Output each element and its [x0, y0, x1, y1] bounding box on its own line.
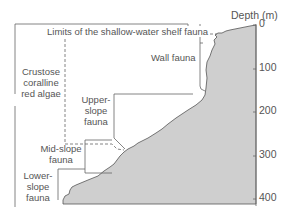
upper-label-line3: fauna	[80, 116, 112, 127]
upper-label-line1: Upper-	[80, 94, 112, 105]
shelf-limit-dashed	[65, 34, 124, 150]
mid-slope-fauna-label: Mid-slope fauna	[38, 143, 84, 165]
mid-label-line2: fauna	[38, 154, 84, 165]
algae-label-line3: red algae	[18, 88, 64, 99]
reef-depth-zonation-diagram: Depth (m) 0 100 200 300 400 Limits of th…	[0, 0, 294, 213]
lower-label-line1: Lower-	[20, 170, 56, 181]
algae-label-line2: coralline	[18, 77, 64, 88]
tick-label-300: 300	[259, 148, 277, 160]
tick-label-400: 400	[259, 191, 277, 203]
upper-label-line2: slope	[80, 105, 112, 116]
depth-axis-title: Depth (m)	[231, 9, 278, 21]
mid-label-line1: Mid-slope	[38, 143, 84, 154]
lower-slope-fauna-label: Lower- slope fauna	[20, 170, 56, 203]
tick-label-200: 200	[259, 104, 277, 116]
tick-label-100: 100	[259, 61, 277, 73]
wall-line	[200, 43, 205, 91]
upper-slope-fauna-label: Upper- slope fauna	[80, 94, 112, 127]
algae-label-line1: Crustose	[18, 66, 64, 77]
lower-label-line3: fauna	[20, 192, 56, 203]
upper-slope-vertical	[114, 94, 125, 149]
wall-fauna-label: Wall fauna	[151, 52, 196, 63]
lower-label-line2: slope	[20, 181, 56, 192]
crustose-algae-label: Crustose coralline red algae	[18, 66, 64, 99]
shelf-fauna-label: Limits of the shallow-water shelf fauna	[46, 26, 209, 37]
tick-label-0: 0	[259, 17, 265, 29]
